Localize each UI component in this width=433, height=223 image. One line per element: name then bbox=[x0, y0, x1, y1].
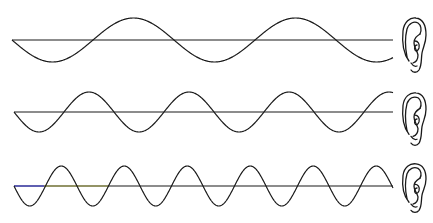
sound-frequency-diagram bbox=[0, 0, 433, 223]
ear-outline bbox=[411, 204, 417, 207]
ear-outline bbox=[415, 115, 420, 125]
high-frequency-wave bbox=[14, 166, 393, 206]
ear-outline bbox=[406, 22, 422, 57]
low-frequency-wave bbox=[12, 18, 393, 62]
ear-outline bbox=[411, 136, 417, 139]
ear-outline bbox=[406, 168, 422, 199]
waves-group bbox=[12, 18, 393, 206]
medium-frequency-wave bbox=[14, 92, 393, 132]
ear-outline bbox=[406, 97, 422, 131]
ear-outline bbox=[415, 184, 420, 193]
ear-outline bbox=[415, 41, 420, 51]
ear-outline bbox=[411, 63, 417, 66]
ears-group bbox=[403, 18, 426, 212]
ear-icon-3 bbox=[403, 164, 426, 213]
ear-icon-1 bbox=[403, 18, 426, 72]
ear-icon-2 bbox=[403, 93, 426, 145]
